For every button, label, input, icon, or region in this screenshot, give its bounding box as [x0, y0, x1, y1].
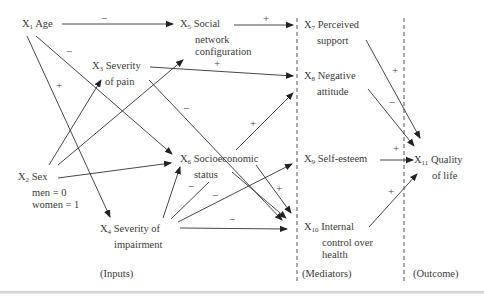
- node-x8-sub: 8: [312, 75, 316, 83]
- edge-x1-x6: [36, 36, 172, 154]
- node-x7-var: X: [304, 19, 312, 30]
- node-x2-sub: 2: [26, 176, 30, 184]
- node-x2-var: X: [18, 171, 26, 182]
- node-x11-line: Quality: [431, 154, 463, 165]
- node-x11-sub: 11: [422, 159, 429, 167]
- node-x3-line: Severity: [106, 60, 141, 71]
- node-x1-var: X: [22, 18, 30, 29]
- edge-x7-x11: [366, 40, 420, 138]
- edge-x6-x8: [236, 93, 293, 150]
- sign-x6-x10: +: [276, 182, 282, 194]
- bottom-rule: [0, 291, 484, 294]
- node-x11-quality-of-life: X11 Quality of life: [414, 154, 462, 182]
- edge-x3-x8: [150, 67, 293, 76]
- node-x2-sex: X2 Sex men = 0 women = 1: [18, 171, 79, 212]
- node-x10-var: X: [304, 221, 312, 232]
- sign-x4-x9: −: [212, 189, 218, 201]
- node-x8-var: X: [304, 70, 312, 81]
- node-x4-line: Severity of: [114, 223, 160, 234]
- node-x5-line: Social: [194, 18, 220, 29]
- sign-x8-x11: −: [389, 96, 395, 108]
- sign-x4-x10: −: [229, 213, 235, 225]
- node-x10-line: Internal: [321, 221, 354, 232]
- node-x10-sub: 10: [312, 226, 319, 234]
- node-x8-negative-attitude: X8 Negative attitude: [304, 70, 356, 98]
- sign-x3-x8: +: [214, 57, 220, 69]
- node-x2-line-women: women = 1: [18, 199, 79, 212]
- node-x3-var: X: [92, 60, 100, 71]
- node-x2-line-men: men = 0: [18, 187, 79, 200]
- node-x4-var: X: [100, 223, 108, 234]
- node-x6-var: X: [180, 153, 188, 164]
- edge-x10-x11: [369, 174, 417, 227]
- node-x4-sub: 4: [108, 228, 112, 236]
- node-x7-perceived-support: X7 Perceived support: [304, 19, 359, 47]
- node-x10-internal-control: X10 Internal control over health: [304, 221, 373, 262]
- sign-x1-x6: −: [66, 45, 72, 57]
- section-outcome: (Outcome): [413, 268, 458, 279]
- node-x6-socioeconomic: X6 Socioeconomic status: [180, 153, 258, 181]
- node-x7-sub: 7: [312, 24, 316, 32]
- node-x4-severity-impairment: X4 Severity of impairment: [100, 223, 162, 251]
- node-x1-sub: 1: [30, 23, 34, 31]
- node-x1-line: Age: [35, 18, 53, 29]
- node-x8-line: Negative: [318, 70, 356, 81]
- node-x6-line: Socioeconomic: [194, 153, 259, 164]
- sign-x10-x11: +: [388, 185, 394, 197]
- node-x9-var: X: [304, 153, 312, 164]
- edge-x4-x10: [180, 228, 287, 229]
- node-x3-sub: 3: [100, 65, 104, 73]
- sign-x5-x7: +: [263, 12, 269, 24]
- section-mediators: (Mediators): [302, 268, 352, 279]
- node-x2-line: Sex: [32, 171, 48, 182]
- edge-x6-x10-b: [256, 165, 291, 213]
- node-x3-severity-pain: X3 Severity of pain: [92, 60, 141, 88]
- node-x9-self-esteem: X9 Self-esteem: [304, 153, 367, 169]
- edge-x4-x6: [163, 167, 180, 218]
- sign-x7-x11: +: [392, 64, 398, 76]
- sign-x1-x5: −: [101, 12, 107, 24]
- node-x8-line-2: attitude: [304, 86, 356, 99]
- node-x1-age: X1 Age: [22, 18, 53, 34]
- sign-x6-x8: +: [250, 117, 256, 129]
- node-x11-line-2: of life: [414, 170, 462, 183]
- node-x5-line-2: network: [180, 34, 252, 47]
- node-x7-line-2: support: [304, 35, 359, 48]
- edge-x2-x3: [49, 80, 101, 165]
- node-x4-line-2: impairment: [100, 239, 162, 252]
- sign-x4-x6: −: [188, 180, 194, 192]
- node-x5-social-network: X5 Social network configuration: [180, 18, 252, 59]
- node-x10-line-2: control over: [304, 237, 373, 250]
- node-x11-var: X: [414, 154, 422, 165]
- node-x9-sub: 9: [312, 158, 316, 166]
- sign-x3-x10: −: [183, 102, 189, 114]
- sign-x1-x4: +: [56, 79, 62, 91]
- node-x3-line-2: of pain: [92, 76, 141, 89]
- node-x10-line-3: health: [304, 249, 373, 262]
- node-x6-sub: 6: [188, 158, 192, 166]
- node-x9-line: Self-esteem: [318, 153, 368, 164]
- node-x5-var: X: [180, 18, 188, 29]
- section-inputs: (Inputs): [100, 268, 133, 279]
- node-x5-sub: 5: [188, 23, 192, 31]
- sign-x9-x11: +: [393, 142, 399, 154]
- node-x7-line: Perceived: [318, 19, 359, 30]
